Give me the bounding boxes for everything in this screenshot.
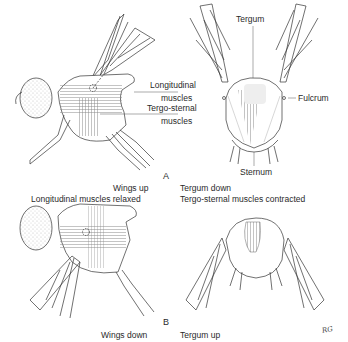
tergosternal-muscles-a xyxy=(78,98,100,136)
head-a xyxy=(20,78,52,118)
label-tergum: Tergum xyxy=(236,14,264,24)
head-b xyxy=(20,206,52,250)
label-tergosternal: Tergo-sternal xyxy=(147,103,197,113)
wings-raised xyxy=(92,14,155,78)
caption-a-left-2: Longitudinal muscles relaxed xyxy=(31,194,141,204)
label-tergosternal-muscles: muscles xyxy=(161,116,192,126)
panel-b-lateral-insect xyxy=(20,204,154,318)
panel-a-frontal-insect xyxy=(190,4,318,166)
label-fulcrum: Fulcrum xyxy=(298,93,329,103)
label-sternum: Sternum xyxy=(240,167,272,177)
caption-a-left-1: Wings up xyxy=(113,183,148,193)
label-longitudinal: Longitudinal xyxy=(150,80,196,90)
caption-b-left-1: Wings down xyxy=(101,330,147,340)
flight-mechanism-diagram xyxy=(0,0,348,342)
caption-a-right-1: Tergum down xyxy=(180,183,231,193)
panel-b-frontal-insect xyxy=(186,218,324,310)
panel-a-lateral-insect xyxy=(16,14,178,170)
caption-b-right-1: Tergum up xyxy=(180,330,220,340)
panel-letter-a: A xyxy=(163,171,169,181)
caption-a-right-2: Tergo-sternal muscles contracted xyxy=(180,194,305,204)
panel-letter-b: B xyxy=(163,317,169,327)
label-longitudinal-muscles: muscles xyxy=(161,93,192,103)
